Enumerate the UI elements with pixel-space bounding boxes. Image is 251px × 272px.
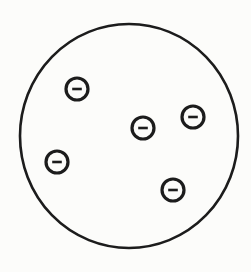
negative-charge — [132, 117, 154, 139]
negative-charge — [162, 179, 184, 201]
negative-charge — [182, 106, 204, 128]
boundary-circle — [20, 24, 238, 248]
charged-sphere-diagram — [0, 0, 251, 272]
negative-charge — [46, 151, 68, 173]
diagram-canvas — [0, 0, 251, 272]
negative-charge — [66, 78, 88, 100]
